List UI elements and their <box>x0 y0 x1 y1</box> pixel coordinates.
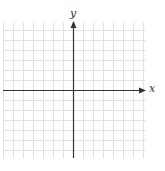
y-axis-arrow-icon <box>71 21 77 28</box>
x-axis-arrow-icon <box>139 88 146 94</box>
y-axis-label: y <box>70 8 76 19</box>
x-axis-label: x <box>149 83 155 94</box>
coordinate-plane <box>0 0 165 171</box>
